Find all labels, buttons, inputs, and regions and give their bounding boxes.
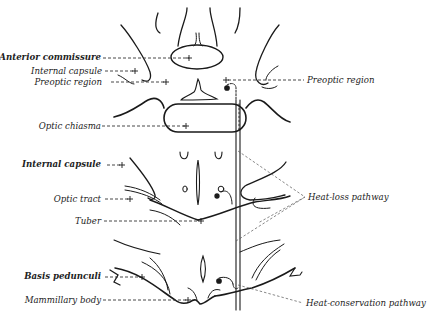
label-optic-chiasma: Optic chiasma xyxy=(39,122,101,131)
section-anterior-commissure xyxy=(118,8,279,89)
hypothalamus-diagram: Anterior commissure Internal capsule Pre… xyxy=(0,0,432,319)
label-optic-tract: Optic tract xyxy=(54,195,101,204)
plus-markers xyxy=(119,55,229,303)
label-basis-pedunculi: Basis pedunculi xyxy=(24,272,101,281)
label-heat-loss-pathway: Heat-loss pathway xyxy=(308,193,388,202)
label-anterior-commissure: Anterior commissure xyxy=(0,53,101,62)
label-heat-conservation-pathway: Heat-conservation pathway xyxy=(306,299,426,308)
section-tuber xyxy=(125,152,290,225)
label-internal-capsule-2: Internal capsule xyxy=(22,160,101,169)
label-mammillary-body: Mammillary body xyxy=(25,296,101,305)
label-preoptic-region-left: Preoptic region xyxy=(34,78,102,87)
label-tuber: Tuber xyxy=(75,217,101,226)
label-internal-capsule-1: Internal capsule xyxy=(31,67,102,76)
label-preoptic-region-right: Preoptic region xyxy=(307,76,375,85)
